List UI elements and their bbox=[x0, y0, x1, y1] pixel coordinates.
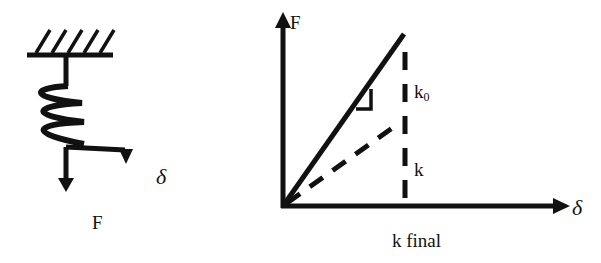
secant-stiffness-label: k bbox=[414, 160, 424, 179]
x-axis-label: δ bbox=[572, 197, 582, 219]
spring-force-label: F bbox=[92, 213, 103, 232]
spring-figure bbox=[27, 30, 133, 192]
spring-displacement-label: δ bbox=[156, 166, 166, 188]
final-label: k final bbox=[392, 231, 441, 250]
fixed-support-icon bbox=[27, 30, 114, 55]
y-axis-arrow-icon bbox=[275, 12, 291, 28]
initial-stiffness-label: k0 bbox=[414, 82, 430, 103]
x-axis-arrow-icon bbox=[553, 198, 570, 214]
spring-icon bbox=[41, 55, 125, 178]
y-axis-label: F bbox=[290, 13, 301, 32]
force-displacement-graph bbox=[275, 12, 570, 214]
k0-text: k bbox=[414, 81, 424, 102]
displacement-arrow-icon bbox=[119, 149, 133, 164]
diagram-canvas bbox=[0, 0, 601, 263]
initial-stiffness-line bbox=[283, 34, 404, 206]
secant-stiffness-line bbox=[287, 126, 395, 203]
k0-subscript: 0 bbox=[424, 90, 430, 104]
force-arrow-icon bbox=[58, 178, 74, 192]
